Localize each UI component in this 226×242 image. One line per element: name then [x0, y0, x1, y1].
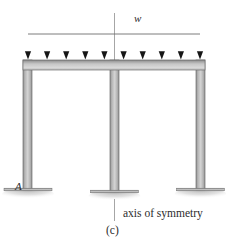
support-plate-right [177, 188, 225, 191]
load-arrow [197, 34, 203, 60]
right-column [196, 60, 205, 190]
support-plate-middle [91, 190, 139, 193]
load-arrow [140, 34, 146, 60]
load-arrow [82, 34, 88, 60]
figure-container: w A axis of symmetry (c) [0, 0, 226, 242]
load-arrow [121, 34, 127, 60]
load-arrow [101, 34, 107, 60]
load-arrow [44, 34, 50, 60]
load-arrow [178, 34, 184, 60]
frame-beam [23, 60, 205, 70]
left-column [23, 60, 32, 190]
top-beam [23, 60, 205, 70]
frame-columns [23, 60, 205, 192]
load-arrow [63, 34, 69, 60]
load-arrow [25, 34, 31, 60]
support-plate-A [4, 188, 52, 191]
axis-of-symmetry-label: axis of symmetry [123, 208, 203, 220]
middle-column [110, 60, 119, 192]
load-label-w: w [134, 13, 141, 24]
figure-caption: (c) [106, 225, 119, 237]
frame-diagram [0, 0, 226, 242]
support-label-a: A [15, 181, 22, 192]
load-arrow [159, 34, 165, 60]
